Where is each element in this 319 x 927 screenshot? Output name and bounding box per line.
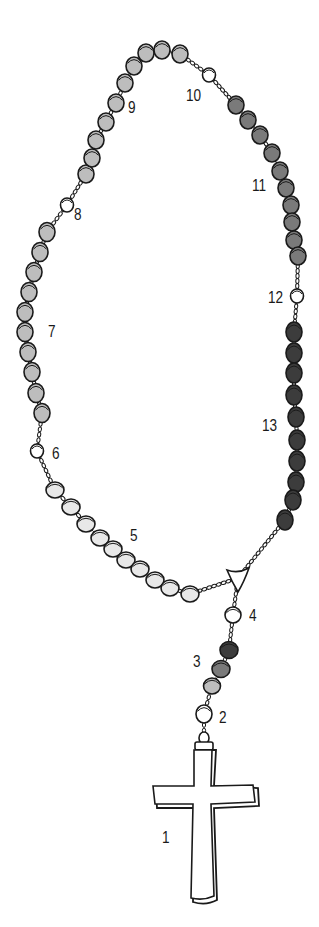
bead-decade-13 — [286, 363, 302, 383]
bead-decade-5 — [131, 561, 149, 577]
bead-decade-11 — [272, 162, 288, 180]
label-9: 9 — [128, 100, 136, 116]
bead-decade-11 — [240, 111, 256, 129]
bead-decade-7 — [34, 404, 50, 423]
bead-3-c — [204, 678, 221, 694]
label-13: 13 — [262, 418, 277, 434]
bead-decade-11 — [228, 96, 244, 114]
bead-decade-13 — [288, 472, 304, 492]
label-7: 7 — [48, 324, 56, 340]
bead-decade-7 — [20, 343, 36, 362]
bead-decade-7 — [21, 283, 37, 302]
bead-decade-13 — [288, 407, 304, 427]
bead-decade-9 — [84, 149, 100, 167]
cross-icon — [153, 732, 259, 904]
bead-decade-11 — [290, 247, 306, 265]
bead-decade-9 — [138, 44, 154, 62]
bead-decade-11 — [283, 196, 299, 214]
bead-decade-9 — [108, 94, 124, 112]
bead-3-b — [212, 661, 230, 678]
bead-decade-7 — [32, 243, 48, 262]
bead-2 — [196, 705, 212, 723]
bead-decade-13 — [289, 451, 305, 471]
label-3: 3 — [193, 654, 201, 670]
bead-decade-9 — [172, 45, 188, 63]
label-1: 1 — [162, 830, 170, 846]
bead-4 — [225, 607, 241, 623]
rosary-drawing — [0, 0, 319, 927]
bead-decade-5 — [161, 580, 179, 596]
bead-decade-13 — [286, 322, 302, 342]
bead-decade-5 — [46, 482, 64, 498]
bead-decade-13 — [286, 343, 302, 363]
bead-decade-9 — [88, 131, 104, 149]
bead-decade-7 — [28, 384, 44, 403]
label-8: 8 — [74, 207, 82, 223]
bead-decade-9 — [154, 41, 170, 59]
bead-decade-7 — [17, 323, 33, 342]
bead-12 — [291, 289, 304, 303]
bead-decade-7 — [17, 303, 33, 322]
bead-decade-13 — [289, 430, 305, 450]
bead-decade-7 — [24, 363, 40, 382]
bead-decade-11 — [252, 126, 268, 144]
bead-decade-11 — [264, 144, 280, 162]
bead-3-a — [220, 642, 238, 659]
bead-6 — [31, 444, 44, 458]
bead-decade-7 — [39, 223, 55, 242]
label-6: 6 — [52, 446, 60, 462]
bead-decade-5 — [181, 586, 199, 602]
bead-8 — [61, 198, 74, 212]
label-4: 4 — [249, 608, 257, 624]
bead-decade-13 — [277, 510, 293, 530]
bead-decade-7 — [26, 263, 42, 282]
bead-10 — [203, 68, 216, 82]
beads — [17, 41, 306, 723]
label-10: 10 — [186, 88, 201, 104]
label-2: 2 — [219, 710, 227, 726]
bead-decade-13 — [286, 385, 302, 405]
bead-decade-9 — [117, 74, 133, 92]
rosary-diagram: 1 2 3 4 5 6 7 8 9 10 11 12 13 — [0, 0, 319, 927]
bead-decade-13 — [285, 490, 301, 510]
label-12: 12 — [268, 290, 283, 306]
chain — [23, 49, 299, 733]
bead-decade-5 — [77, 516, 95, 532]
bead-decade-11 — [278, 179, 294, 197]
bead-decade-9 — [98, 113, 114, 131]
label-11: 11 — [252, 178, 266, 194]
label-5: 5 — [130, 528, 138, 544]
bead-decade-11 — [284, 213, 300, 231]
bead-decade-5 — [62, 499, 80, 515]
bead-decade-11 — [286, 231, 302, 249]
